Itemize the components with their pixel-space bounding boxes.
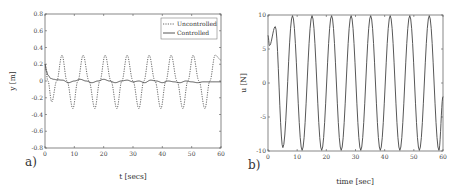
x-tick-label: 20 <box>100 150 108 157</box>
y-tick-label: -0.6 <box>31 127 43 134</box>
chart-b-x-tick-labels: 0102030405060 <box>266 153 447 160</box>
chart-a-x-tick-labels: 0102030405060 <box>43 150 225 157</box>
panel-label-b: b) <box>248 158 260 172</box>
x-tick-label: 10 <box>71 150 79 157</box>
legend-controlled-label: Controlled <box>177 29 209 36</box>
y-tick-label: -0.2 <box>31 94 43 101</box>
x-tick-label: 0 <box>266 153 270 160</box>
chart-a-controlled-line <box>45 64 221 82</box>
y-tick-label: 0 <box>262 79 266 86</box>
x-tick-label: 30 <box>352 153 360 160</box>
y-tick-label: -10 <box>256 147 266 154</box>
x-tick-label: 10 <box>293 153 301 160</box>
x-tick-label: 50 <box>410 153 418 160</box>
y-tick-label: -5 <box>260 113 266 120</box>
y-tick-label: 0.6 <box>33 27 43 34</box>
figure: 0102030405060 0.80.60.40.20-0.2-0.4-0.6-… <box>0 0 460 188</box>
x-tick-label: 60 <box>217 150 225 157</box>
chart-b-y-axis-label: u [N] <box>239 73 248 93</box>
x-tick-label: 40 <box>159 150 167 157</box>
y-tick-label: 10 <box>258 11 266 18</box>
x-tick-label: 0 <box>43 150 47 157</box>
chart-a-y-axis-label: y [m] <box>8 71 17 92</box>
panel-label-a: a) <box>25 155 37 169</box>
y-tick-label: -0.8 <box>31 144 43 151</box>
x-tick-label: 30 <box>129 150 137 157</box>
x-tick-label: 50 <box>188 150 196 157</box>
y-tick-label: 0.8 <box>33 10 43 17</box>
chart-b-y-tick-labels: 1050-5-10 <box>256 11 266 154</box>
y-tick-label: 0.2 <box>33 60 43 67</box>
x-tick-label: 60 <box>439 153 447 160</box>
y-tick-label: 0.4 <box>33 44 43 51</box>
chart-b: 0102030405060 1050-5-10 b) time [sec] u … <box>239 11 447 186</box>
chart-a-legend: Uncontrolled Controlled <box>161 18 217 39</box>
chart-a: 0102030405060 0.80.60.40.20-0.2-0.4-0.6-… <box>8 10 225 181</box>
chart-b-control-input-line <box>268 16 443 151</box>
y-tick-label: 5 <box>262 45 266 52</box>
chart-a-x-axis-label: t [secs] <box>119 172 147 181</box>
chart-a-y-tick-labels: 0.80.60.40.20-0.2-0.4-0.6-0.8 <box>31 10 43 151</box>
x-tick-label: 40 <box>381 153 389 160</box>
legend-uncontrolled-label: Uncontrolled <box>177 20 217 27</box>
y-tick-label: -0.4 <box>31 111 43 118</box>
x-tick-label: 20 <box>323 153 331 160</box>
y-tick-label: 0 <box>39 77 43 84</box>
chart-b-x-axis-label: time [sec] <box>336 177 374 186</box>
